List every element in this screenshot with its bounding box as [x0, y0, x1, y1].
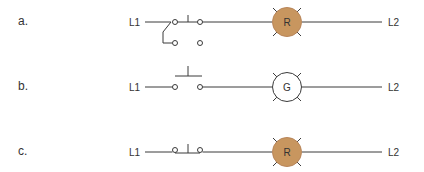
ladder-diagrams: L1 R L2 L1 — [0, 0, 424, 172]
terminal-l2-a: L2 — [388, 17, 400, 28]
lamp-letter-c: R — [283, 147, 290, 158]
selector-switch-icon — [163, 15, 203, 46]
lamp-letter-a: R — [283, 17, 290, 28]
diagram-b: L1 G L2 — [129, 66, 400, 102]
pilot-lamp-icon: R — [273, 8, 302, 37]
terminal-l2-c: L2 — [388, 147, 400, 158]
lamp-letter-b: G — [283, 82, 291, 93]
diagram-c: L1 R L2 — [129, 138, 400, 167]
terminal-l1-b: L1 — [129, 82, 141, 93]
terminal-l1-c: L1 — [129, 147, 141, 158]
terminal-l1-a: L1 — [129, 17, 141, 28]
diagram-a: L1 R L2 — [129, 8, 400, 46]
pushbutton-nc-icon — [173, 144, 203, 153]
pushbutton-no-icon — [173, 66, 203, 90]
pilot-lamp-icon: R — [273, 138, 302, 167]
pilot-lamp-icon: G — [273, 73, 302, 102]
terminal-l2-b: L2 — [388, 82, 400, 93]
